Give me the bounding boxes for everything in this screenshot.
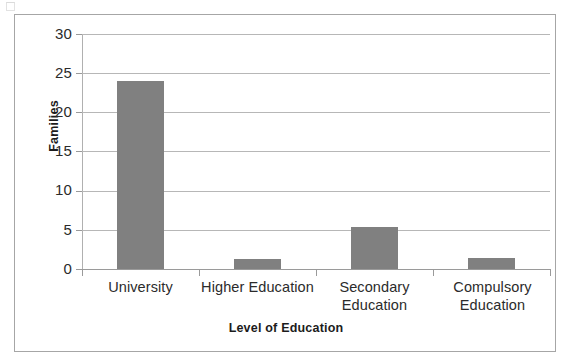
y-axis-tick-label: 20 [26,104,72,119]
x-axis-title: Level of Education [15,321,557,335]
bar-university[interactable] [117,81,164,269]
y-axis-tick-label: 25 [26,65,72,80]
y-axis-title: Families [47,66,61,186]
x-axis-category-label-secondary-education: Secondary Education [321,278,428,314]
x-axis-tick-mark [82,269,83,276]
x-axis-tick-mark [199,269,200,276]
y-axis-tick-label: 30 [26,26,72,41]
x-axis-tick-mark [433,269,434,276]
bar-compulsory-education[interactable] [468,258,515,269]
gridline-25 [82,73,550,74]
bar-higher-education[interactable] [234,259,281,269]
bar-secondary-education[interactable] [351,227,398,269]
x-axis-category-label-compulsory-education: Compulsory Education [435,278,550,314]
y-axis-tick-label: 5 [26,222,72,237]
x-axis-category-label-university: University [82,278,199,296]
x-axis-tick-mark [550,269,551,276]
plot-area [82,34,550,269]
y-axis-tick-label: 10 [26,182,72,197]
y-axis-tick-label: 15 [26,143,72,158]
y-axis-tick-label: 0 [26,261,72,276]
x-axis-tick-mark [316,269,317,276]
bar-chart: Families 30 25 20 15 10 5 0 Univer [14,14,556,352]
scan-artifact [6,2,15,11]
gridline-30 [82,34,550,35]
x-axis-category-label-higher-education: Higher Education [192,278,323,296]
